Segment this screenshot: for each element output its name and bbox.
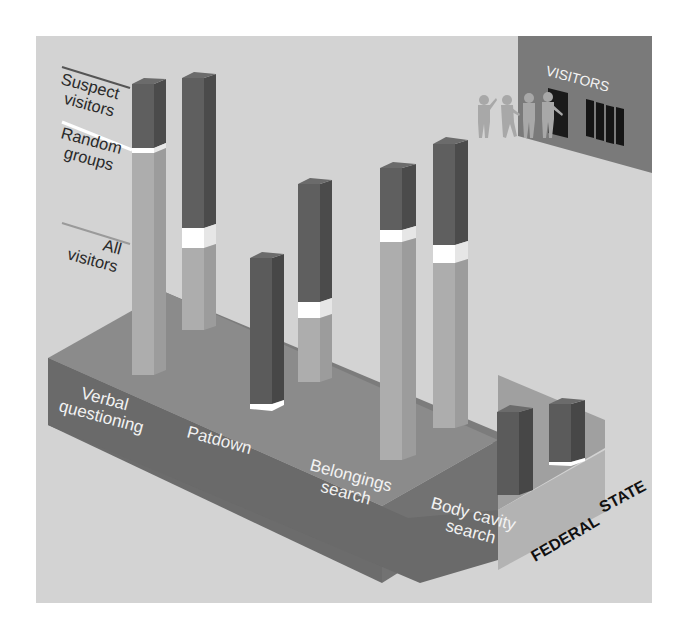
bar-body-cavity-small-2: [549, 398, 585, 466]
bar-verbal-questioning: [132, 78, 166, 375]
bar-patdown-state: [250, 252, 284, 411]
bar-belongings-federal: [298, 178, 332, 382]
bar-belongings-state: [380, 162, 416, 460]
bar-patdown-federal: [182, 72, 216, 330]
chart-illustration: VISITORS: [0, 0, 687, 635]
bar-body-cavity-federal: [433, 137, 468, 428]
bar-body-cavity-small-1: [497, 405, 533, 495]
